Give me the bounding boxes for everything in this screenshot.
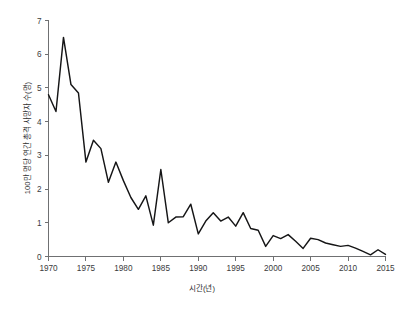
chart-figure: 01234567 1970197519801985199019952000200… bbox=[0, 0, 402, 309]
x-tick-label: 2000 bbox=[264, 264, 283, 273]
x-tick-label: 1985 bbox=[152, 264, 171, 273]
y-tick-label: 4 bbox=[37, 118, 42, 127]
y-axis-title: 100만 명당 연간 총격 사망자 수(명) bbox=[22, 81, 32, 194]
x-tick-label: 1980 bbox=[114, 264, 133, 273]
x-tick-label: 1970 bbox=[39, 264, 58, 273]
line-chart: 01234567 1970197519801985199019952000200… bbox=[0, 0, 402, 309]
x-tick-label: 2015 bbox=[376, 264, 395, 273]
y-tick-label: 5 bbox=[37, 84, 42, 93]
x-tick-label: 1990 bbox=[189, 264, 208, 273]
y-tick-label: 1 bbox=[37, 219, 42, 228]
x-tick-label: 2010 bbox=[339, 264, 358, 273]
x-axis-title: 시간(년) bbox=[189, 283, 216, 293]
y-tick-label: 7 bbox=[37, 17, 42, 26]
x-tick-label: 2005 bbox=[302, 264, 321, 273]
y-tick-label: 0 bbox=[37, 253, 42, 262]
y-tick-label: 2 bbox=[37, 185, 42, 194]
y-tick-label: 3 bbox=[37, 151, 42, 160]
x-tick-label: 1995 bbox=[227, 264, 246, 273]
y-tick-label: 6 bbox=[37, 50, 42, 59]
x-tick-label: 1975 bbox=[77, 264, 96, 273]
